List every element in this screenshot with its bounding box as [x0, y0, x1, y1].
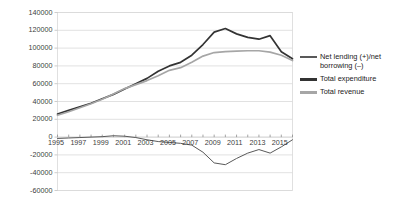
y-axis-tick-label: -20000 [30, 150, 52, 159]
y-axis-tick-label: 120000 [29, 25, 53, 34]
x-axis-tick-label: 1997 [70, 138, 86, 147]
chart-container: Net lending (+)/net borrowing (–) Total … [0, 0, 415, 197]
legend-item-total-expenditure: Total expenditure [300, 74, 415, 83]
x-axis-tick-label: 2015 [272, 138, 288, 147]
y-axis-tick-label: 140000 [29, 8, 53, 17]
x-axis-tick-label: 1999 [93, 138, 109, 147]
y-axis-tick-label: 60000 [33, 79, 53, 88]
y-axis-tick-label: 80000 [33, 61, 53, 70]
y-axis-tick-label: 20000 [33, 114, 53, 123]
y-axis-tick-label: 40000 [33, 97, 53, 106]
legend-item-net-lending: Net lending (+)/net borrowing (–) [300, 52, 415, 70]
x-axis-tick-label: 2007 [182, 138, 198, 147]
y-axis-tick-label: 100000 [29, 43, 53, 52]
legend-label-net-lending: Net lending (+)/net borrowing (–) [320, 52, 415, 70]
x-axis-tick-label: 2005 [160, 138, 176, 147]
legend-swatch-total-expenditure [300, 78, 317, 81]
x-axis-tick-label: 2003 [138, 138, 154, 147]
chart-legend: Net lending (+)/net borrowing (–) Total … [300, 52, 415, 100]
x-axis-tick-label: 2009 [205, 138, 221, 147]
x-axis-tick-label: 1995 [48, 138, 64, 147]
legend-item-total-revenue: Total revenue [300, 87, 415, 96]
legend-label-total-revenue: Total revenue [320, 87, 364, 96]
y-axis-tick-label: -40000 [30, 168, 52, 177]
legend-swatch-total-revenue [300, 91, 317, 94]
x-axis-tick-label: 2013 [249, 138, 265, 147]
legend-label-total-expenditure: Total expenditure [320, 74, 376, 83]
x-axis-tick-label: 2011 [227, 138, 242, 147]
x-axis-tick-label: 2001 [115, 138, 131, 147]
y-axis-tick-label: -60000 [30, 186, 52, 195]
legend-swatch-net-lending [300, 56, 317, 58]
